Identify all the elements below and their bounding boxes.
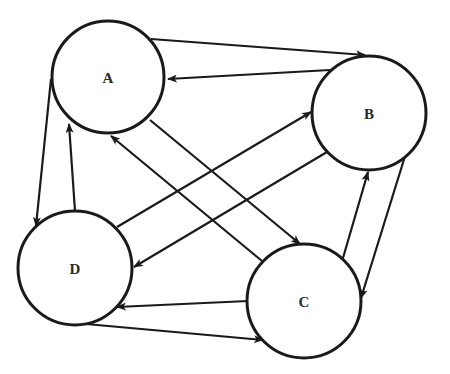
edge-c-to-b-arrow [343, 172, 368, 258]
edge-c-to-d-arrow [117, 301, 248, 307]
node-a: A [52, 21, 164, 133]
edge-d-to-a-arrow [69, 124, 75, 211]
edge-a-to-b-arrow [151, 39, 365, 55]
node-c-label: C [299, 294, 310, 310]
node-c: C [247, 244, 361, 358]
directed-graph-diagram: ABCD [0, 0, 450, 374]
node-a-label: A [103, 70, 114, 86]
edge-b-to-a-arrow [168, 70, 330, 79]
node-b: B [312, 56, 426, 170]
nodes-layer: ABCD [18, 21, 426, 358]
node-d: D [18, 211, 132, 325]
node-b-label: B [364, 106, 374, 122]
edge-d-to-c-arrow [75, 323, 263, 340]
edge-d-to-b-arrow [117, 112, 311, 227]
node-d-label: D [70, 261, 81, 277]
edge-a-to-d-arrow [36, 79, 51, 226]
